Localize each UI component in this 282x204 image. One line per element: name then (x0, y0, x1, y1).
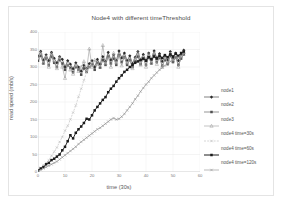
x-tick-label: 0 (31, 174, 45, 178)
plot-area (38, 32, 200, 172)
legend-item[interactable]: node1 (203, 86, 234, 96)
y-axis-label: read speed (mb/s) (8, 65, 14, 131)
legend-marker-icon (203, 160, 220, 168)
y-tick-label: 150 (21, 118, 37, 122)
y-tick-label: 200 (21, 100, 37, 104)
y-tick-label: 250 (21, 83, 37, 87)
legend-label: node4 time=60s (220, 147, 254, 152)
y-tick-label: 50 (21, 153, 37, 157)
legend-marker-icon (203, 131, 220, 139)
series-lines (38, 44, 185, 172)
legend-marker-icon (203, 102, 220, 110)
x-axis-ticks: 0102030405060 (38, 174, 200, 183)
x-tick-label: 50 (166, 174, 180, 178)
legend-item[interactable]: node4 time=60s (203, 144, 254, 154)
x-tick-label: 10 (58, 174, 72, 178)
legend-item[interactable]: node4 time=30s (203, 130, 254, 140)
y-tick-label: 400 (21, 30, 37, 34)
legend-marker-icon (203, 145, 220, 153)
legend-item[interactable]: node2 (203, 101, 234, 111)
plot-svg (38, 32, 200, 172)
legend-label: node2 (220, 103, 234, 108)
legend-label: node1 (220, 89, 234, 94)
y-axis-ticks: 050100150200250300350400 (20, 32, 37, 172)
x-tick-label: 40 (139, 174, 153, 178)
legend-label: node4 time=30s (220, 132, 254, 137)
legend-marker-icon (203, 116, 220, 124)
chart-title: Node4 with different timeThreshold (0, 14, 282, 21)
chart-legend: node1node2node3node4 time=30snode4 time=… (203, 86, 279, 174)
x-tick-label: 60 (193, 174, 207, 178)
chart-page: Node4 with different timeThreshold read … (0, 0, 282, 204)
y-tick-label: 100 (21, 135, 37, 139)
x-tick-label: 30 (112, 174, 126, 178)
x-tick-label: 20 (85, 174, 99, 178)
x-axis-label: time (30s) (38, 184, 200, 190)
legend-label: node4 time=120s (220, 161, 256, 166)
legend-item[interactable]: node4 time=120s (203, 159, 256, 169)
legend-item[interactable]: node3 (203, 115, 234, 125)
y-tick-label: 300 (21, 65, 37, 69)
legend-label: node3 (220, 118, 234, 123)
legend-marker-icon (203, 87, 220, 95)
y-tick-label: 350 (21, 48, 37, 52)
